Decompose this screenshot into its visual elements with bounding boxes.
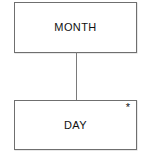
multiplicity-marker-day: * (126, 102, 130, 113)
entity-label-day: DAY (15, 119, 136, 131)
relationship-connector-month-day (76, 52, 77, 101)
entity-box-day[interactable]: DAY * (14, 100, 137, 150)
entity-box-month[interactable]: MONTH (14, 2, 137, 53)
er-diagram-canvas: MONTH DAY * (0, 0, 144, 162)
clipped-caption-strip (0, 152, 144, 162)
entity-label-month: MONTH (15, 21, 136, 33)
